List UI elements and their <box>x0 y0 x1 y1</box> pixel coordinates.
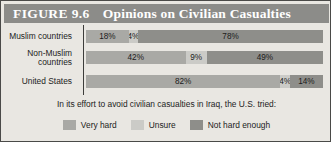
legend-swatch-icon <box>131 120 144 130</box>
bar-segment-unsure: 4% <box>129 30 138 43</box>
figure-title-band: FIGURE 9.6 Opinions on Civilian Casualti… <box>4 4 329 23</box>
bar-segment-very-hard: 18% <box>86 30 129 43</box>
bar-segment-very-hard: 42% <box>86 51 186 64</box>
bar-segment-unsure: 4% <box>280 75 289 88</box>
legend-label: Very hard <box>81 120 117 130</box>
legend-item-not-hard-enough: Not hard enough <box>190 120 270 130</box>
legend-swatch-icon <box>190 120 203 130</box>
category-label: United States <box>1 77 77 86</box>
bar-segment-not-hard-enough: 49% <box>207 51 323 64</box>
figure-container: FIGURE 9.6 Opinions on Civilian Casualti… <box>0 0 331 142</box>
stacked-bar: 82% 4% 14% <box>86 75 323 88</box>
legend-label: Unsure <box>149 120 176 130</box>
legend-item-very-hard: Very hard <box>63 120 117 130</box>
legend-swatch-icon <box>63 120 76 130</box>
bar-segment-not-hard-enough: 78% <box>138 30 323 43</box>
stacked-bar: 18% 4% 78% <box>86 30 323 43</box>
category-label: Muslim countries <box>1 32 77 41</box>
bar-segment-unsure: 9% <box>186 51 207 64</box>
chart-caption: In its effort to avoid civilian casualti… <box>1 99 331 109</box>
stacked-bar: 42% 9% 49% <box>86 51 323 64</box>
category-label: Non-Muslim countries <box>1 49 77 68</box>
chart-plot-area: Muslim countries Non-Muslim countries Un… <box>1 25 331 95</box>
figure-number-label: FIGURE 9.6 <box>13 6 90 22</box>
legend-label: Not hard enough <box>208 120 270 130</box>
bar-segment-not-hard-enough: 14% <box>290 75 323 88</box>
figure-title: Opinions on Civilian Casualties <box>103 6 291 22</box>
chart-legend: Very hard Unsure Not hard enough <box>1 118 331 131</box>
bar-segment-very-hard: 82% <box>86 75 280 88</box>
legend-item-unsure: Unsure <box>131 120 176 130</box>
